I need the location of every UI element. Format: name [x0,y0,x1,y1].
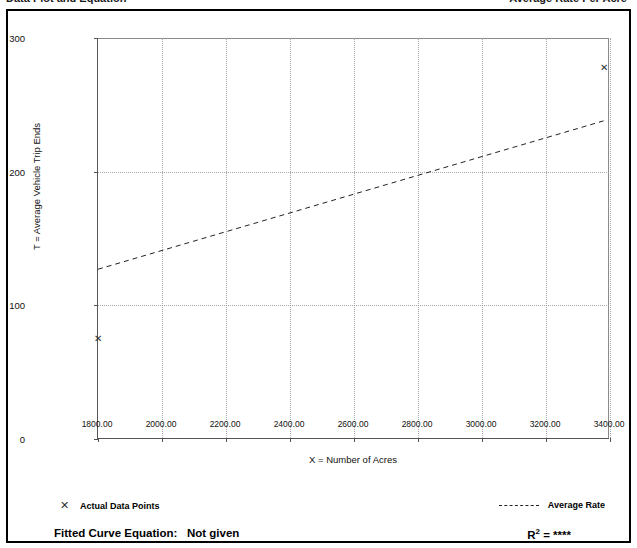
x-axis-tick-label: 1800.00 [82,419,113,429]
page-title-left: Data Plot and Equation [6,0,126,4]
legend-item-actual-data-points: ✕ Actual Data Points [60,500,160,511]
dashed-line-icon [499,505,539,506]
x-axis-tick-label: 2600.00 [338,419,369,429]
r-squared-label: R [527,529,535,541]
x-axis-tick [610,438,611,442]
trend-line-segment [98,121,604,269]
x-axis-tick-label: 2200.00 [210,419,241,429]
r-squared-annotation: R2 = **** [527,527,571,541]
x-axis-tick-label: 2400.00 [274,419,305,429]
data-point-marker: ✕ [599,63,608,72]
r-squared-exponent: 2 [536,527,540,536]
page-header: Data Plot and Equation Average Rate Per … [0,0,637,9]
r-squared-value: = **** [543,529,571,541]
average-rate-trend-line [98,38,610,439]
x-marker-icon: ✕ [60,500,69,511]
x-axis-tick-label: 3400.00 [594,419,625,429]
y-axis-tick-label: 100 [9,300,25,311]
fitted-curve-equation-label: Fitted Curve Equation: [54,527,177,539]
legend-label-actual-data-points: Actual Data Points [80,501,160,511]
fitted-curve-equation-value: Not given [187,527,239,539]
equation-row: Fitted Curve Equation: Not given R2 = **… [8,527,633,547]
plot-area: ✕✕ [97,38,609,439]
y-axis-tick-label: 300 [9,33,25,44]
y-axis-tick-label: 0 [20,434,25,445]
y-axis-title: T = Average Vehicle Trip Ends [31,67,42,307]
x-axis-tick-label: 3000.00 [466,419,497,429]
y-axis-tick [94,439,98,440]
figure-frame: T = Average Vehicle Trip Ends ✕✕ 1800.00… [6,9,631,543]
data-point-marker: ✕ [94,334,103,343]
legend-item-average-rate: Average Rate [499,500,605,510]
page-title-right: Average Rate Per Acre [509,0,627,4]
gridline-vertical [610,38,611,438]
x-axis-tick-label: 2000.00 [146,419,177,429]
y-axis-tick-label: 200 [9,166,25,177]
fitted-curve-equation: Fitted Curve Equation: Not given [54,527,239,539]
x-axis-title: X = Number of Acres [97,454,609,465]
x-axis-tick-label: 2800.00 [402,419,433,429]
legend-label-average-rate: Average Rate [548,500,605,510]
chart-legend: ✕ Actual Data Points Average Rate [8,500,633,522]
x-axis-tick-label: 3200.00 [530,419,561,429]
